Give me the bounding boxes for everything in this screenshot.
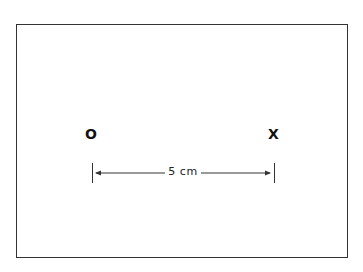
- dimension-arrow: [0, 0, 363, 272]
- distance-label: 5 cm: [165, 165, 201, 179]
